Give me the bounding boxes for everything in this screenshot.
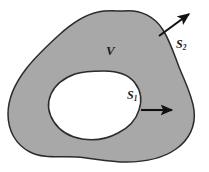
- label-outer-surface-subscript: 2: [183, 43, 187, 52]
- outer-normal-arrow: [159, 14, 189, 36]
- label-outer-surface-base: S: [176, 37, 183, 51]
- figure-container: V S1 S2: [0, 0, 209, 172]
- region-diagram-svg: [0, 0, 209, 172]
- label-outer-surface-s2: S2: [176, 38, 186, 50]
- label-inner-surface-subscript: 1: [134, 94, 138, 103]
- label-volume-base: V: [106, 43, 115, 58]
- label-volume-V: V: [106, 44, 115, 57]
- label-inner-surface-s1: S1: [127, 89, 137, 101]
- shaded-volume-region: [8, 11, 194, 162]
- label-inner-surface-base: S: [127, 88, 134, 102]
